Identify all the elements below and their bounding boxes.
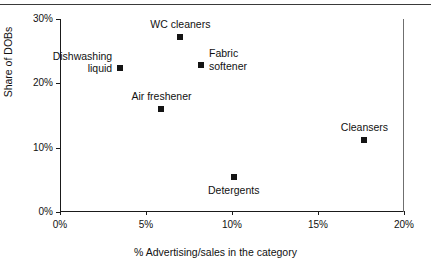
data-point-marker[interactable] [177,34,183,40]
x-tick-mark [404,211,405,215]
data-point-label: Fabric softener [209,47,247,72]
data-point-marker[interactable] [117,65,123,71]
x-tick-label: 20% [394,220,414,230]
y-tick-label: 10% [33,143,53,153]
y-axis-spine [60,19,61,212]
y-tick-mark [56,19,60,20]
y-tick-label: 20% [33,78,53,88]
data-point-label: Cleansers [341,120,388,133]
data-point-marker[interactable] [361,137,367,143]
data-point-marker[interactable] [231,174,237,180]
right-spine [403,19,404,212]
data-point-label: Dishwashing liquid [53,49,113,74]
top-divider-rule [0,4,431,5]
scatter-chart-figure: 0%10%20%30% 0%5%10%15%20% WC cleanersDis… [0,0,431,266]
y-tick-mark [56,83,60,84]
data-point-label: Air freshener [131,90,191,103]
y-axis-title: Share of DOBs [2,2,14,122]
x-tick-mark [146,211,147,215]
data-point-label: WC cleaners [150,18,210,31]
x-axis-title: % Advertising/sales in the category [0,246,431,258]
x-tick-label: 15% [308,220,328,230]
x-tick-label: 5% [139,220,153,230]
data-point-label: Detergents [208,184,259,197]
x-tick-mark [60,211,61,215]
plot-area: 0%10%20%30% 0%5%10%15%20% WC cleanersDis… [60,19,404,212]
data-point-marker[interactable] [158,106,164,112]
y-tick-label: 0% [39,207,53,217]
x-tick-label: 0% [53,220,67,230]
x-tick-mark [318,211,319,215]
y-tick-label: 30% [33,14,53,24]
x-tick-mark [232,211,233,215]
y-tick-mark [56,148,60,149]
x-tick-label: 10% [222,220,242,230]
data-point-marker[interactable] [198,62,204,68]
